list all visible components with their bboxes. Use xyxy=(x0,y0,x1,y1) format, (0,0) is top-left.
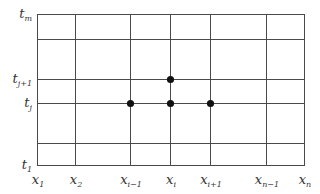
x-label-n−1: xn−1 xyxy=(255,172,279,189)
x-label-i+1: xi+1 xyxy=(200,172,222,189)
t-label-j: tj xyxy=(24,95,32,112)
x-label-2: x2 xyxy=(70,172,82,189)
node-iminus1-j-dot xyxy=(127,100,134,107)
node-i-j-dot xyxy=(167,100,174,107)
x-label-n: xn xyxy=(299,172,312,189)
finite-difference-grid-diagram: x1x2xi−1xixi+1xn−1xn tmtj+1tjt1 xyxy=(0,0,320,194)
x-label-i−1: xi−1 xyxy=(120,172,142,189)
y-axis-labels: tmtj+1tjt1 xyxy=(12,6,32,174)
node-iplus1-j-dot xyxy=(207,100,214,107)
x-axis-labels: x1x2xi−1xixi+1xn−1xn xyxy=(32,172,311,189)
node-i-jplus1-dot xyxy=(167,76,174,83)
t-label-j+1: tj+1 xyxy=(12,71,32,88)
x-label-1: x1 xyxy=(32,172,44,189)
grid-lines xyxy=(37,14,305,166)
x-label-i: xi xyxy=(166,172,176,189)
grid-canvas: x1x2xi−1xixi+1xn−1xn tmtj+1tjt1 xyxy=(0,0,320,194)
t-label-1: t1 xyxy=(22,157,32,174)
t-label-m: tm xyxy=(19,6,32,23)
